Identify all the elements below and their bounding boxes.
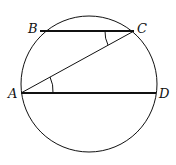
angle-mark-cad [50, 77, 53, 93]
label-d: D [158, 86, 170, 101]
label-a: A [7, 86, 17, 101]
label-b: B [27, 21, 38, 36]
geometry-diagram: B C A D [0, 0, 176, 165]
diagram-canvas: B C A D [0, 0, 176, 165]
segment-ac [21, 31, 134, 93]
angle-mark-bca [105, 31, 108, 45]
circle [21, 16, 157, 152]
label-c: C [137, 21, 147, 36]
